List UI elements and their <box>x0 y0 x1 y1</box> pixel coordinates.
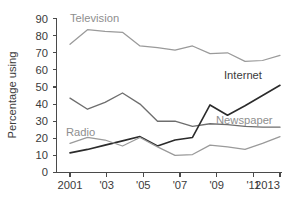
y-tick-label-30: 30 <box>36 115 48 127</box>
y-tick-label-20: 20 <box>36 132 48 144</box>
y-axis-tick-labels: 0 10 20 30 40 50 60 70 80 90 <box>36 13 48 179</box>
series-label-television: Television <box>70 12 119 24</box>
series-group <box>70 30 280 156</box>
y-tick-label-90: 90 <box>36 13 48 25</box>
y-axis-title: Percentage using <box>6 51 18 138</box>
x-axis-ticks <box>70 173 280 178</box>
y-tick-label-10: 10 <box>36 149 48 161</box>
chart-canvas: 0 10 20 30 40 50 60 70 80 90 2001 '03 '0… <box>0 0 285 203</box>
x-tick-label-2007: '07 <box>173 179 188 191</box>
series-label-internet: Internet <box>224 69 263 81</box>
x-tick-label-2013: 2013 <box>255 179 280 191</box>
x-tick-label-2003: '03 <box>99 179 114 191</box>
series-line-television <box>70 30 280 62</box>
series-label-radio: Radio <box>66 126 95 138</box>
y-tick-label-70: 70 <box>36 47 48 59</box>
x-tick-label-2009: '09 <box>209 179 224 191</box>
y-tick-label-0: 0 <box>42 166 48 178</box>
y-tick-label-50: 50 <box>36 81 48 93</box>
x-tick-label-2005: '05 <box>136 179 151 191</box>
y-tick-label-40: 40 <box>36 98 48 110</box>
line-chart-figure: 0 10 20 30 40 50 60 70 80 90 2001 '03 '0… <box>0 0 285 203</box>
y-axis-ticks <box>53 19 57 173</box>
y-tick-label-80: 80 <box>36 30 48 42</box>
x-axis-tick-labels: 2001 '03 '05 '07 '09 '11 2013 <box>58 179 280 191</box>
x-tick-label-2001: 2001 <box>58 179 83 191</box>
y-tick-label-60: 60 <box>36 64 48 76</box>
series-label-newspaper: Newspaper <box>216 114 273 126</box>
